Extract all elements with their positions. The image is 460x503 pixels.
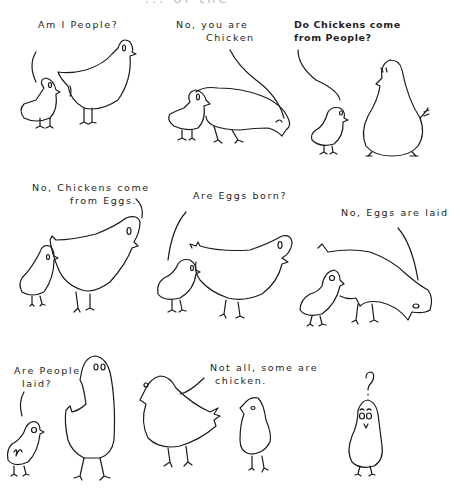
- comic-drawings: [0, 0, 460, 503]
- panel-3-speech-line: [298, 50, 340, 100]
- panel-9-question-mark: [366, 372, 374, 395]
- panel-4-chick: [20, 246, 58, 306]
- panel-3-chick: [312, 108, 349, 155]
- panel-2-hen-pecking: [196, 88, 290, 144]
- panel-1-speech-line: [32, 52, 36, 82]
- panel-5-chick: [158, 260, 200, 313]
- panel-9-bird-confused: [349, 400, 382, 476]
- panel-7-person: [65, 356, 114, 480]
- panel-4-speech-line: [136, 199, 142, 218]
- panel-1-hen: [58, 40, 136, 124]
- panel-5-hen: [190, 236, 292, 318]
- panel-8-chick: [240, 398, 271, 472]
- panel-3-person: [363, 60, 429, 156]
- panel-1-chick: [21, 78, 60, 128]
- panel-7-chick: [8, 422, 45, 476]
- panel-6-hen-pecking: [318, 244, 432, 324]
- panel-8-hen: [140, 376, 220, 467]
- panel-4-hen: [50, 217, 140, 312]
- panel-5-speech-line: [168, 212, 186, 260]
- panel-7-speech-line: [20, 392, 24, 416]
- panel-8-speech-line: [180, 378, 204, 394]
- panel-6-speech-line: [398, 228, 418, 280]
- panel-6-chick: [300, 270, 344, 326]
- panel-2-chick: [169, 90, 210, 140]
- panel-2-speech-line: [230, 50, 284, 118]
- comic-page: ... of the Am I People? No, you are Chic…: [0, 0, 460, 503]
